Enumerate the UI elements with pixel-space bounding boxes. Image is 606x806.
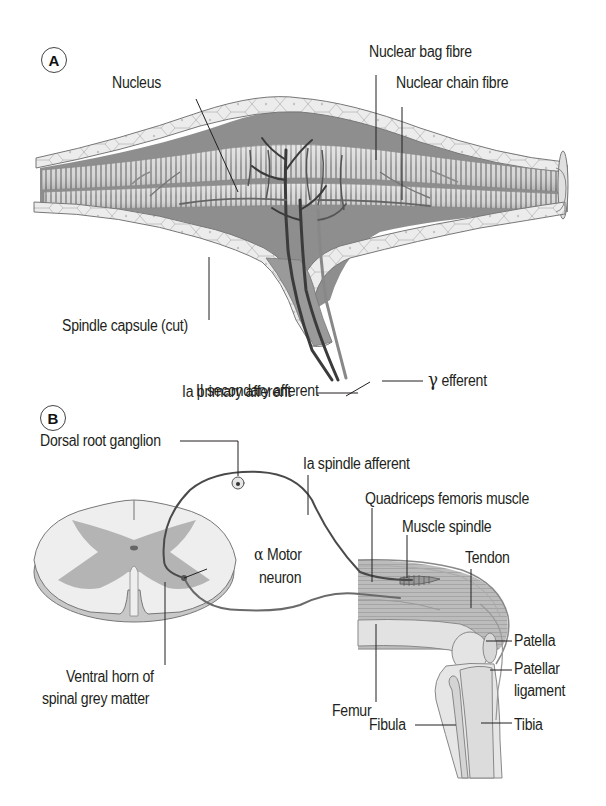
gamma-efferent-text: efferent <box>441 372 486 389</box>
panel-b-badge-text: B <box>48 410 59 427</box>
label-quadriceps: Quadriceps femoris muscle <box>365 490 529 508</box>
label-tendon: Tendon <box>465 549 510 567</box>
label-spindle-capsule: Spindle capsule (cut) <box>62 317 188 335</box>
spindle-illustration <box>34 97 568 380</box>
label-ia-spindle-afferent: Ia spindle afferent <box>303 455 410 473</box>
label-nuclear-chain-fibre: Nuclear chain fibre <box>396 74 508 92</box>
spinal-cord-section <box>34 500 236 622</box>
alpha-symbol: α <box>254 545 263 564</box>
label-ii-secondary-afferent: II secondary afferent <box>196 382 319 400</box>
panel-a-badge-text: A <box>49 52 60 69</box>
label-neuron: neuron <box>259 569 301 587</box>
label-nucleus: Nucleus <box>112 74 161 92</box>
label-muscle-spindle: Muscle spindle <box>402 518 491 536</box>
label-tibia: Tibia <box>514 716 543 734</box>
knee-illustration <box>358 560 509 778</box>
label-alpha-motor-neuron: α Motor <box>254 546 302 564</box>
label-gamma-efferent: γ efferent <box>428 370 487 390</box>
panel-b-badge: B <box>40 405 66 431</box>
label-patellar-ligament-1: Patellar <box>514 660 560 678</box>
patella <box>483 633 497 663</box>
label-patellar-ligament-2: ligament <box>514 682 565 700</box>
label-fibula: Fibula <box>369 716 406 734</box>
label-patella: Patella <box>514 632 555 650</box>
label-ventral-horn-1: Ventral horn of <box>66 668 154 686</box>
gamma-symbol: γ <box>428 368 438 390</box>
label-femur: Femur <box>332 702 371 720</box>
muscle-spindle-figure: A B Nucleus Nuclear bag fibre Nuclear ch… <box>0 0 606 806</box>
motor-text: Motor <box>267 546 302 563</box>
panel-a-badge: A <box>41 47 67 73</box>
label-dorsal-root-ganglion: Dorsal root ganglion <box>40 432 161 450</box>
label-nuclear-bag-fibre: Nuclear bag fibre <box>369 43 472 61</box>
label-ventral-horn-2: spinal grey matter <box>42 690 149 708</box>
